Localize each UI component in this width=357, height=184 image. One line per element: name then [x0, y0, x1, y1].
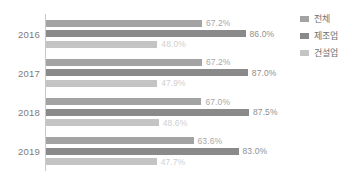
- bar-row: 48.0%: [46, 41, 290, 48]
- bar-row: 83.0%: [46, 148, 290, 155]
- bar-row: 47.9%: [46, 80, 290, 87]
- bar-chart: 2016 67.2% 86.0% 48.0%: [0, 0, 357, 184]
- bar-group: 2016 67.2% 86.0% 48.0%: [0, 14, 290, 53]
- legend-item-total[interactable]: 전체: [300, 10, 357, 27]
- bar-row: 67.0%: [46, 98, 290, 105]
- legend-swatch-icon: [300, 16, 309, 22]
- bar-construction[interactable]: [46, 158, 157, 165]
- category-label-2016: 2016: [0, 28, 40, 39]
- bar-row: 86.0%: [46, 30, 290, 37]
- legend-item-manufacturing[interactable]: 제조업: [300, 27, 357, 44]
- plot-area: 2016 67.2% 86.0% 48.0%: [0, 0, 290, 184]
- bar-row: 48.6%: [46, 119, 290, 126]
- bar-construction[interactable]: [46, 41, 157, 48]
- bar-group: 2017 67.2% 87.0% 47.9%: [0, 53, 290, 92]
- bar-value-construction: 48.0%: [161, 39, 186, 49]
- bar-total[interactable]: [46, 59, 202, 66]
- bar-group: 2018 67.0% 87.5% 48.6%: [0, 93, 290, 132]
- bar-value-construction: 48.6%: [163, 118, 188, 128]
- bar-value-total: 67.0%: [205, 97, 230, 107]
- bar-set: 67.2% 86.0% 48.0%: [46, 14, 290, 53]
- bar-set: 67.2% 87.0% 47.9%: [46, 53, 290, 92]
- legend-label: 제조업: [314, 29, 338, 42]
- bar-manufacturing[interactable]: [46, 30, 246, 37]
- bar-groups: 2016 67.2% 86.0% 48.0%: [0, 14, 290, 171]
- legend-label: 건설업: [314, 46, 338, 59]
- bar-row: 67.2%: [46, 59, 290, 66]
- bar-value-manufacturing: 87.0%: [252, 68, 277, 78]
- bar-manufacturing[interactable]: [46, 109, 249, 116]
- bar-value-manufacturing: 87.5%: [253, 107, 278, 117]
- category-label-2017: 2017: [0, 67, 40, 78]
- bar-value-construction: 47.9%: [161, 78, 186, 88]
- legend-swatch-icon: [300, 50, 309, 56]
- bar-value-manufacturing: 86.0%: [250, 29, 275, 39]
- bar-construction[interactable]: [46, 119, 159, 126]
- bar-value-total: 67.2%: [206, 18, 231, 28]
- bar-value-total: 67.2%: [206, 57, 231, 67]
- legend-swatch-icon: [300, 33, 309, 39]
- bar-value-total: 63.6%: [198, 136, 223, 146]
- bar-total[interactable]: [46, 20, 202, 27]
- bar-row: 87.0%: [46, 69, 290, 76]
- bar-manufacturing[interactable]: [46, 148, 239, 155]
- bar-group: 2019 63.6% 83.0% 47.7%: [0, 132, 290, 171]
- legend-label: 전체: [314, 12, 330, 25]
- category-label-2018: 2018: [0, 107, 40, 118]
- bar-row: 67.2%: [46, 20, 290, 27]
- chart-legend: 전체 제조업 건설업: [300, 10, 357, 61]
- bar-set: 67.0% 87.5% 48.6%: [46, 93, 290, 132]
- bar-value-construction: 47.7%: [161, 157, 186, 167]
- bar-value-manufacturing: 83.0%: [243, 146, 268, 156]
- category-label-2019: 2019: [0, 146, 40, 157]
- legend-item-construction[interactable]: 건설업: [300, 44, 357, 61]
- bar-total[interactable]: [46, 137, 194, 144]
- bar-row: 47.7%: [46, 158, 290, 165]
- bar-row: 87.5%: [46, 109, 290, 116]
- bar-construction[interactable]: [46, 80, 157, 87]
- bar-manufacturing[interactable]: [46, 69, 248, 76]
- bar-set: 63.6% 83.0% 47.7%: [46, 132, 290, 171]
- bar-row: 63.6%: [46, 137, 290, 144]
- bar-total[interactable]: [46, 98, 201, 105]
